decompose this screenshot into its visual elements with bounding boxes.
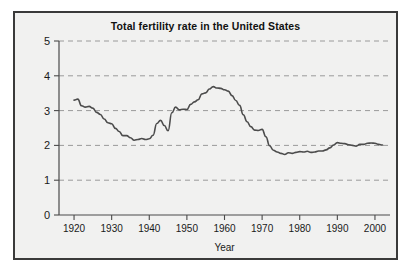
x-tick-label-1940: 1940: [138, 223, 161, 234]
y-tick-label-3: 3: [44, 105, 50, 117]
y-tick-label-1: 1: [44, 174, 50, 186]
x-tick-label-1950: 1950: [176, 223, 199, 234]
x-tick-label-1930: 1930: [101, 223, 124, 234]
x-tick-label-2000: 2000: [364, 223, 387, 234]
chart-figure: Total fertility rate in the United State…: [0, 0, 412, 272]
y-tick-label-5: 5: [44, 35, 50, 47]
y-tick-label-4: 4: [44, 70, 50, 82]
chart-frame: Total fertility rate in the United State…: [13, 11, 398, 260]
gridlines-group: [59, 41, 390, 180]
x-tick-label-1960: 1960: [213, 223, 236, 234]
y-tick-labels-group: 012345: [44, 35, 50, 221]
x-tick-marks-group: [74, 215, 375, 220]
x-tick-label-1920: 1920: [63, 223, 86, 234]
y-tick-label-2: 2: [44, 139, 50, 151]
x-tick-labels-group: 192019301940195019601970198019902000: [63, 223, 387, 234]
chart-plot-area: 012345 192019301940195019601970198019902…: [15, 13, 400, 262]
y-tick-marks-group: [54, 41, 59, 215]
data-series-line: [74, 87, 382, 155]
x-tick-label-1970: 1970: [251, 223, 274, 234]
y-tick-label-0: 0: [44, 209, 50, 221]
x-axis-title: Year: [214, 242, 235, 253]
x-tick-label-1990: 1990: [326, 223, 349, 234]
x-tick-label-1980: 1980: [289, 223, 312, 234]
